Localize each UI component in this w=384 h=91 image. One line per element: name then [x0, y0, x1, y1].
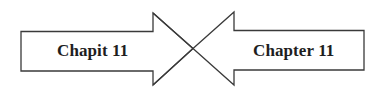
left-arrow-label: Chapit 11	[57, 42, 128, 59]
opposing-arrows-diagram: Chapit 11 Chapter 11	[0, 0, 384, 91]
right-arrow-label: Chapter 11	[253, 42, 334, 59]
